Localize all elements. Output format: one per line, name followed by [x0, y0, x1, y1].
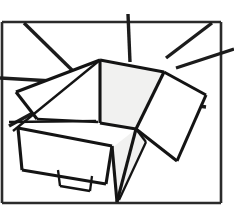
edge-flap-left-fold-edge — [9, 121, 96, 122]
open-box-burst-drawing — [0, 0, 234, 214]
ray-vertical-top — [128, 14, 130, 62]
illustration-canvas: Open Box Line Drawing open cardboard box… — [0, 0, 234, 214]
